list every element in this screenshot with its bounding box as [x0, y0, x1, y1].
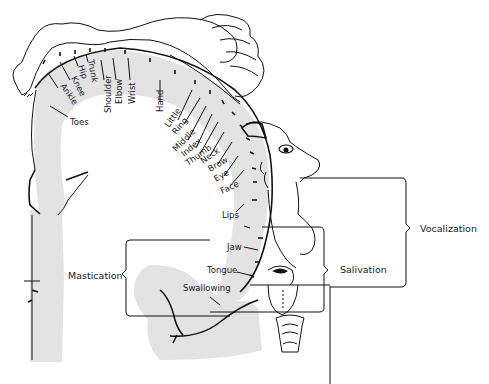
- larynx-icon: [276, 315, 304, 352]
- label-tongue: Tongue: [206, 265, 237, 275]
- label-mastication: Mastication: [68, 270, 123, 281]
- label-lips: Lips: [222, 210, 239, 220]
- label-elbow: Elbow: [114, 79, 124, 104]
- label-vocalization: Vocalization: [420, 223, 477, 234]
- label-salivation: Salivation: [340, 264, 387, 275]
- label-hand: Hand: [155, 90, 165, 112]
- label-toes: Toes: [69, 117, 89, 127]
- label-jaw: Jaw: [226, 242, 242, 252]
- motor-homunculus-diagram: Toes Ankle Knee Hip Trunk Shoulder Elbow…: [0, 0, 489, 384]
- function-labels: Mastication Salivation Vocalization: [68, 223, 477, 281]
- label-swallowing: Swallowing: [183, 283, 231, 293]
- label-shoulder: Shoulder: [103, 75, 113, 113]
- label-wrist: Wrist: [127, 82, 137, 104]
